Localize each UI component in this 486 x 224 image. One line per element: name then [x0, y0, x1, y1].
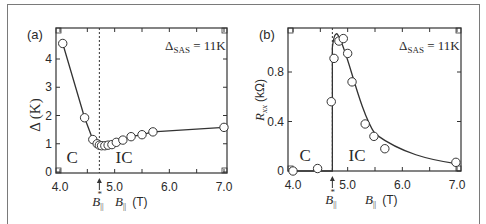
delta-sas-annotation: ΔSAS = 11K [165, 38, 226, 55]
y-tick-label: 1 [45, 137, 52, 151]
region-label-commensurate: C [299, 146, 310, 165]
region-label-commensurate: C [66, 148, 77, 167]
data-point [452, 158, 460, 166]
region-label-incommensurate: IC [116, 148, 133, 167]
data-point [348, 78, 356, 86]
x-axis-label: B||(T) [365, 192, 397, 209]
panel-b: 4.05.06.07.000.40.8B||*B||(T)Rxx(kΩ)(b)Δ… [252, 27, 466, 209]
data-point [127, 132, 135, 140]
x-tick-label: 4.0 [285, 178, 302, 192]
data-point [339, 34, 347, 42]
x-tick-label: 6.0 [394, 178, 411, 192]
x-tick-label: 4.0 [52, 180, 69, 194]
data-point [59, 39, 67, 47]
panel-label: (a) [27, 27, 43, 42]
y-axis-label: Δ (K) [27, 98, 44, 131]
data-point [149, 128, 157, 136]
x-tick-label: 6.0 [161, 180, 178, 194]
x-tick-label: 5.0 [339, 178, 356, 192]
figure: 4.05.06.07.001234B||*B||(T)Δ (K)(a)ΔSAS … [0, 0, 486, 224]
y-tick-label: 0 [277, 164, 284, 178]
x-axis-label: B||(T) [115, 194, 147, 211]
data-point [370, 132, 378, 140]
data-point [138, 131, 146, 139]
data-point [80, 114, 88, 122]
data-point [313, 164, 321, 172]
x-tick-label: 5.0 [106, 180, 123, 194]
data-point [343, 49, 351, 57]
delta-sas-annotation: ΔSAS = 11K [399, 38, 460, 55]
region-label-incommensurate: IC [349, 146, 366, 165]
panel-a: 4.05.06.07.001234B||*B||(T)Δ (K)(a)ΔSAS … [27, 27, 233, 211]
critical-field-label: B||* [92, 189, 103, 211]
y-tick-label: 2 [45, 109, 52, 123]
y-tick-label: 0.8 [267, 65, 284, 79]
y-axis-label: Rxx(kΩ) [252, 79, 269, 122]
x-tick-label: 7.0 [216, 180, 233, 194]
y-tick-label: 0.4 [267, 115, 284, 129]
data-point [289, 167, 297, 175]
y-tick-label: 3 [45, 80, 52, 94]
data-curve [293, 34, 456, 171]
data-point [330, 54, 338, 62]
critical-field-label: B||* [325, 187, 336, 209]
y-tick-label: 4 [45, 52, 52, 66]
data-point [381, 145, 389, 153]
data-point [119, 136, 127, 144]
panel-label: (b) [259, 27, 275, 42]
y-tick-label: 0 [45, 165, 52, 179]
data-point [327, 98, 335, 106]
data-point [361, 120, 369, 128]
x-tick-label: 7.0 [449, 178, 466, 192]
data-point [220, 123, 228, 131]
